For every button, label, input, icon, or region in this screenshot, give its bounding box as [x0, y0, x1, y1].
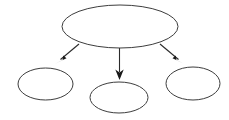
edge-group [56, 44, 184, 80]
node-child-right-ellipse[interactable] [166, 67, 220, 100]
diagram-canvas [0, 0, 229, 120]
edge-root-to-child-middle [115, 48, 123, 80]
node-root-ellipse[interactable] [62, 5, 178, 48]
diagram-svg [0, 0, 229, 120]
edge-root-to-child-left [56, 44, 80, 64]
edge-root-to-child-right [160, 44, 184, 64]
node-child-middle-ellipse[interactable] [90, 82, 148, 113]
node-child-left-ellipse[interactable] [18, 68, 73, 100]
